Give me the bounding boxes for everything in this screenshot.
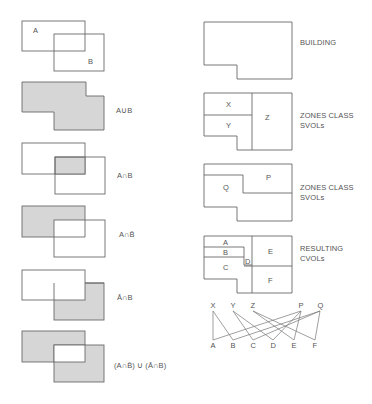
graph-node-d: D <box>271 341 277 350</box>
region-y: Y <box>226 121 231 130</box>
divider-pq <box>204 175 292 193</box>
graph-node-e: E <box>292 341 297 350</box>
graph-edge-q-f <box>315 311 320 340</box>
venn-a-not-b: A∩B̄ <box>22 206 135 257</box>
diagram-canvas: A B A∪B A∩B A∩B̄ Ā∩B (A∩B̄) ∪ (Ā∩B) <box>0 0 372 404</box>
region-a: A <box>223 238 228 247</box>
caption-zones-pq-2: SVOLs <box>300 193 324 202</box>
zones-pq-outline <box>204 164 292 221</box>
graph-node-f: F <box>313 341 318 350</box>
zones-xyz-outline <box>204 93 292 150</box>
region-b: B <box>223 248 228 257</box>
venn-not-a-b: Ā∩B <box>22 270 133 320</box>
set-b-rect <box>54 34 104 71</box>
svol-cvol-graph: XYZPQ ABCDEF <box>211 301 324 350</box>
graph-bottom-nodes: ABCDEF <box>211 341 318 350</box>
graph-node-y: Y <box>231 301 236 310</box>
region-f: F <box>268 276 273 285</box>
caption-resulting-2: CVOLs <box>300 254 325 263</box>
union-shape <box>22 82 104 130</box>
zones-pq-diagram: Q P ZONES CLASS SVOLs <box>204 164 354 221</box>
set-b-rect <box>54 220 105 257</box>
region-c: C <box>223 263 229 272</box>
venn-intersection: A∩B <box>22 143 133 194</box>
building-outline <box>204 22 292 79</box>
graph-node-x: X <box>211 301 216 310</box>
graph-edge-p-e <box>294 311 301 340</box>
building-diagram: BUILDING <box>204 22 336 79</box>
caption-intersection: A∩B <box>117 171 133 180</box>
graph-node-b: B <box>231 341 236 350</box>
graph-edge-x-b <box>213 311 233 340</box>
caption-not-a-b: Ā∩B <box>117 293 133 302</box>
region-p: P <box>266 173 271 182</box>
region-d: D <box>245 257 251 266</box>
venn-union: A∪B <box>22 82 132 130</box>
label-a: A <box>33 26 38 35</box>
graph-edge-y-d <box>233 311 273 340</box>
region-e: E <box>268 247 273 256</box>
caption-a-not-b: A∩B̄ <box>119 230 135 239</box>
graph-node-z: Z <box>251 301 256 310</box>
region-x: X <box>226 100 231 109</box>
region-z: Z <box>265 113 270 122</box>
set-a-rect <box>22 21 85 51</box>
label-b: B <box>88 57 93 66</box>
graph-edge-y-c <box>233 311 253 340</box>
graph-top-nodes: XYZPQ <box>211 301 324 310</box>
caption-symmetric-difference: (A∩B̄) ∪ (Ā∩B) <box>114 361 167 370</box>
zones-xyz-diagram: X Y Z ZONES CLASS SVOLs <box>204 93 354 150</box>
graph-edge-q-b <box>233 311 320 340</box>
venn-base: A B <box>22 21 104 71</box>
caption-zones-xyz-2: SVOLs <box>300 121 324 130</box>
set-a-rect <box>22 270 85 300</box>
graph-node-c: C <box>251 341 257 350</box>
graph-node-q: Q <box>318 301 324 310</box>
graph-node-a: A <box>211 341 216 350</box>
caption-zones-pq-1: ZONES CLASS <box>300 183 354 192</box>
caption-zones-xyz-1: ZONES CLASS <box>300 111 354 120</box>
graph-edges <box>213 311 320 340</box>
graph-node-p: P <box>299 301 304 310</box>
resulting-cvols-diagram: A B C D E F RESULTING CVOLs <box>204 236 343 293</box>
intersection-shade <box>55 157 85 174</box>
region-q: Q <box>223 183 229 192</box>
caption-resulting-1: RESULTING <box>300 244 343 253</box>
venn-symmetric-difference: (A∩B̄) ∪ (Ā∩B) <box>22 331 167 382</box>
caption-building: BUILDING <box>300 38 336 47</box>
caption-union: A∪B <box>116 106 132 115</box>
intersection-unshaded <box>54 345 85 362</box>
